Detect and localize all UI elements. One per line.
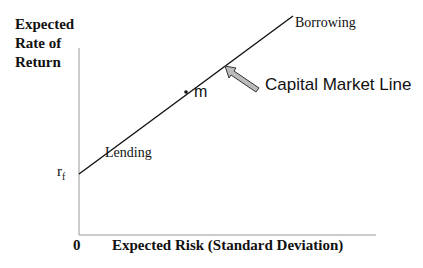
y-axis-label-line: Expected	[15, 15, 74, 34]
risk-free-rate-label: rf	[57, 163, 65, 182]
y-axis-label-line: Rate of	[15, 34, 74, 53]
y-axis-label-line: Return	[15, 53, 74, 72]
arrow-icon	[225, 66, 259, 92]
rf-subscript: f	[62, 171, 65, 182]
y-axis-label: Expected Rate of Return	[15, 15, 74, 72]
origin-label: 0	[73, 237, 81, 254]
borrowing-label: Borrowing	[295, 15, 356, 31]
market-portfolio-point	[184, 90, 188, 94]
x-axis-label: Expected Risk (Standard Deviation)	[112, 237, 343, 254]
capital-market-line-label: Capital Market Line	[265, 75, 411, 95]
lending-label: Lending	[105, 145, 152, 161]
market-portfolio-label: m	[194, 83, 207, 101]
